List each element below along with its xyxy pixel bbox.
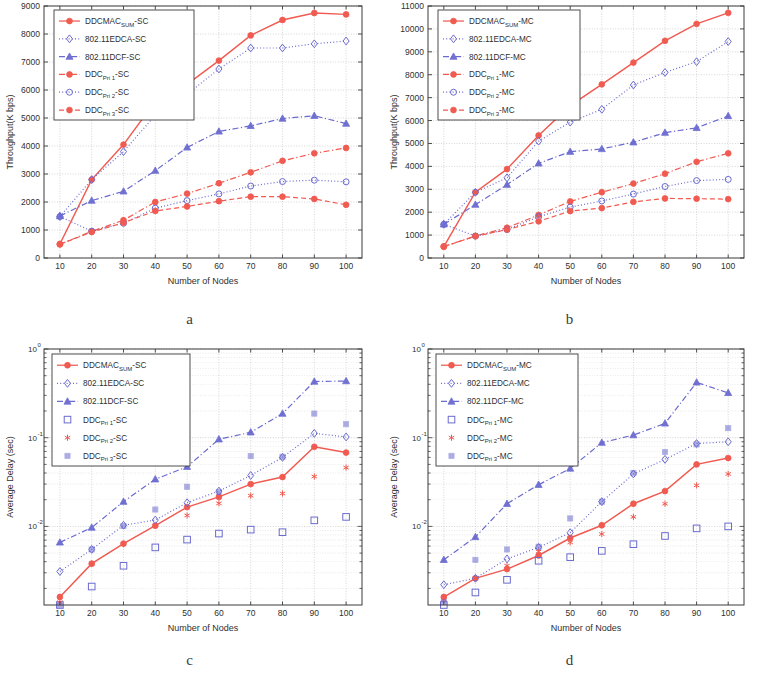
svg-text:40: 40 — [534, 261, 544, 271]
svg-text:8000: 8000 — [405, 70, 424, 80]
panel-d: 10203040506070809010010010-110-2Number o… — [380, 337, 759, 673]
svg-text:70: 70 — [246, 608, 256, 618]
svg-text:Number of Nodes: Number of Nodes — [168, 276, 239, 286]
svg-text:1000: 1000 — [405, 230, 424, 240]
svg-text:50: 50 — [182, 261, 192, 271]
svg-text:100: 100 — [721, 608, 735, 618]
svg-text:10: 10 — [412, 522, 421, 531]
svg-text:6000: 6000 — [21, 85, 40, 95]
svg-text:Number of Nodes: Number of Nodes — [551, 623, 622, 633]
svg-text:Average Delay (sec): Average Delay (sec) — [5, 436, 15, 517]
svg-text:802.11EDCA-SC: 802.11EDCA-SC — [85, 35, 146, 44]
svg-text:30: 30 — [502, 261, 512, 271]
svg-text:50: 50 — [565, 261, 575, 271]
svg-text:80: 80 — [278, 261, 288, 271]
svg-text:100: 100 — [721, 261, 735, 271]
panel-b: 1020304050607080901000100020003000400050… — [380, 0, 759, 336]
svg-text:70: 70 — [629, 261, 639, 271]
svg-text:8000: 8000 — [21, 29, 40, 39]
svg-text:802.11DCF-MC: 802.11DCF-MC — [469, 53, 526, 62]
svg-text:80: 80 — [660, 608, 670, 618]
svg-text:0: 0 — [35, 253, 40, 263]
svg-text:10: 10 — [55, 608, 65, 618]
plot-b: 1020304050607080901000100020003000400050… — [380, 0, 759, 300]
svg-text:10: 10 — [28, 522, 37, 531]
svg-text:30: 30 — [119, 608, 129, 618]
panel-d-caption: d — [380, 652, 759, 669]
svg-text:2000: 2000 — [21, 197, 40, 207]
svg-text:802.11DCF-SC: 802.11DCF-SC — [85, 53, 140, 62]
svg-text:802.11EDCA-MC: 802.11EDCA-MC — [469, 35, 532, 44]
svg-text:7000: 7000 — [21, 57, 40, 67]
svg-text:9000: 9000 — [21, 1, 40, 11]
svg-text:1000: 1000 — [21, 225, 40, 235]
svg-text:100: 100 — [339, 261, 353, 271]
svg-text:9000: 9000 — [405, 47, 424, 57]
svg-text:-2: -2 — [422, 519, 428, 525]
svg-text:30: 30 — [119, 261, 129, 271]
svg-text:10: 10 — [412, 434, 421, 443]
svg-text:80: 80 — [660, 261, 670, 271]
svg-text:11000: 11000 — [401, 1, 424, 11]
svg-text:20: 20 — [87, 608, 97, 618]
svg-text:10: 10 — [412, 345, 421, 354]
svg-text:5000: 5000 — [405, 138, 424, 148]
svg-text:90: 90 — [310, 261, 320, 271]
svg-text:Throughput(K bps): Throughput(K bps) — [5, 94, 15, 169]
svg-text:0: 0 — [422, 342, 426, 348]
svg-text:802.11EDCA-SC: 802.11EDCA-SC — [83, 379, 144, 388]
svg-text:10: 10 — [55, 261, 65, 271]
svg-text:50: 50 — [182, 608, 192, 618]
svg-text:90: 90 — [310, 608, 320, 618]
svg-text:-1: -1 — [422, 431, 428, 437]
svg-text:70: 70 — [246, 261, 256, 271]
svg-text:80: 80 — [278, 608, 288, 618]
svg-text:20: 20 — [471, 261, 481, 271]
svg-text:3000: 3000 — [21, 169, 40, 179]
svg-text:-1: -1 — [38, 431, 44, 437]
svg-text:10: 10 — [439, 261, 449, 271]
svg-text:40: 40 — [534, 608, 544, 618]
svg-text:Average Delay (sec): Average Delay (sec) — [389, 436, 399, 517]
svg-text:0: 0 — [38, 342, 42, 348]
svg-text:30: 30 — [502, 608, 512, 618]
panel-a: 1020304050607080901000100020003000400050… — [0, 0, 379, 336]
svg-text:40: 40 — [151, 261, 161, 271]
svg-text:4000: 4000 — [21, 141, 40, 151]
panel-b-caption: b — [380, 311, 759, 328]
svg-text:90: 90 — [692, 608, 702, 618]
svg-text:4000: 4000 — [405, 161, 424, 171]
plot-d: 10203040506070809010010010-110-2Number o… — [380, 337, 759, 637]
svg-text:802.11EDCA-MC: 802.11EDCA-MC — [467, 379, 530, 388]
svg-text:5000: 5000 — [21, 113, 40, 123]
plot-a: 1020304050607080901000100020003000400050… — [0, 0, 379, 300]
svg-text:Number of Nodes: Number of Nodes — [168, 623, 239, 633]
svg-text:6000: 6000 — [405, 116, 424, 126]
panel-c-caption: c — [0, 652, 379, 669]
svg-text:90: 90 — [692, 261, 702, 271]
svg-text:10: 10 — [28, 345, 37, 354]
svg-text:20: 20 — [471, 608, 481, 618]
panel-c: 10203040506070809010010010-110-2Number o… — [0, 337, 379, 673]
svg-text:50: 50 — [565, 608, 575, 618]
svg-text:100: 100 — [339, 608, 353, 618]
svg-text:2000: 2000 — [405, 207, 424, 217]
plot-c: 10203040506070809010010010-110-2Number o… — [0, 337, 379, 637]
svg-text:10000: 10000 — [400, 24, 424, 34]
panel-a-caption: a — [0, 311, 379, 328]
svg-text:20: 20 — [87, 261, 97, 271]
svg-text:802.11DCF-SC: 802.11DCF-SC — [83, 397, 138, 406]
svg-text:10: 10 — [439, 608, 449, 618]
svg-text:3000: 3000 — [405, 184, 424, 194]
svg-text:60: 60 — [214, 261, 224, 271]
svg-text:70: 70 — [629, 608, 639, 618]
figure-grid: 1020304050607080901000100020003000400050… — [0, 0, 759, 673]
svg-text:Number of Nodes: Number of Nodes — [551, 276, 622, 286]
svg-text:10: 10 — [28, 434, 37, 443]
svg-text:60: 60 — [597, 261, 607, 271]
svg-text:7000: 7000 — [405, 93, 424, 103]
svg-text:Throughput(K bps): Throughput(K bps) — [389, 94, 399, 169]
svg-text:40: 40 — [151, 608, 161, 618]
svg-text:60: 60 — [214, 608, 224, 618]
svg-text:60: 60 — [597, 608, 607, 618]
